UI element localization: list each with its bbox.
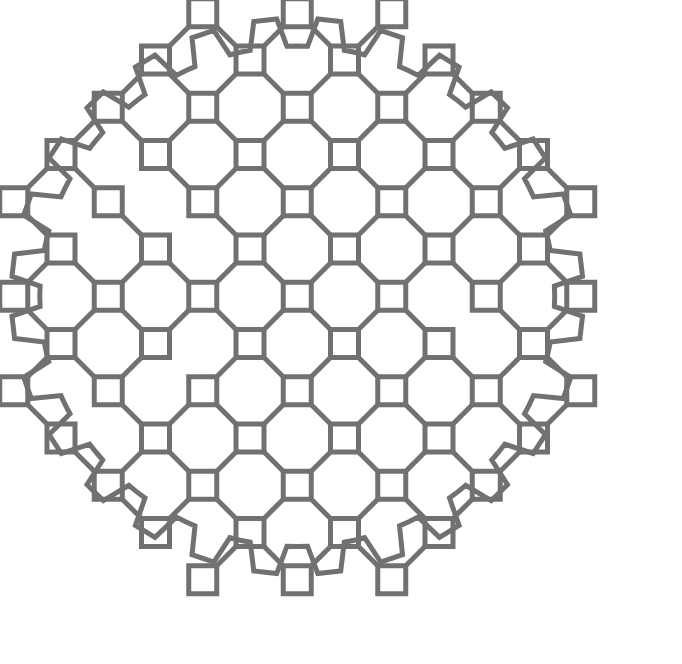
pattern-figure: Octagonal lattice ornament Monochrome li… [0,0,682,664]
